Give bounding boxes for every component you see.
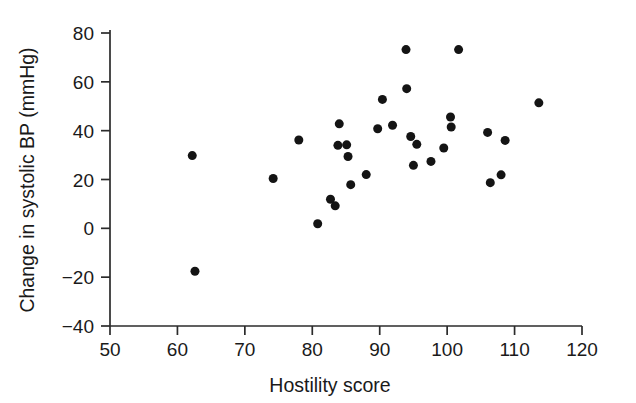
data-point [497,170,506,179]
data-point [342,140,351,149]
data-point [313,219,322,228]
data-point [483,128,492,137]
y-axis-title: Change in systolic BP (mmHg) [16,47,38,312]
y-tick-label: 20 [73,170,94,191]
data-point [402,84,411,93]
axes [110,30,582,326]
data-point [378,95,387,104]
data-point [406,132,415,141]
y-tick-label: 80 [73,23,94,44]
data-point [409,161,418,170]
x-tick-labels: 5060708090100110120 [99,339,597,360]
data-point [426,157,435,166]
data-point [534,98,543,107]
data-point [333,141,342,150]
data-point [388,121,397,130]
data-point [454,45,463,54]
data-point [188,151,197,160]
data-point [447,123,456,132]
x-tick-label: 90 [369,339,390,360]
tick-marks [101,33,582,335]
data-point [373,124,382,133]
data-point [501,136,510,145]
x-tick-label: 70 [234,339,255,360]
data-point [412,140,421,149]
data-point [190,267,199,276]
scatter-plot-figure: 5060708090100110120 806040200−20−40 Host… [0,0,636,403]
chart-canvas: 5060708090100110120 806040200−20−40 Host… [0,0,636,403]
y-tick-label: 40 [73,121,94,142]
x-tick-label: 80 [302,339,323,360]
y-tick-label: −40 [62,316,94,337]
data-point [446,112,455,121]
data-point [335,119,344,128]
data-point [294,135,303,144]
x-tick-label: 50 [99,339,120,360]
data-point [269,174,278,183]
data-points [188,45,544,276]
data-point [486,178,495,187]
y-tick-label: 0 [83,218,94,239]
x-tick-label: 110 [499,339,529,360]
x-tick-label: 100 [431,339,463,360]
data-point [439,144,448,153]
x-tick-label: 120 [566,339,598,360]
data-point [402,45,411,54]
data-point [346,180,355,189]
x-tick-label: 60 [167,339,188,360]
data-point [331,201,340,210]
y-tick-labels: 806040200−20−40 [62,23,94,337]
x-axis-title: Hostility score [269,374,390,396]
data-point [362,170,371,179]
y-tick-label: 60 [73,72,94,93]
y-tick-label: −20 [62,267,94,288]
data-point [344,152,353,161]
